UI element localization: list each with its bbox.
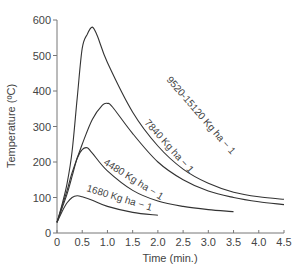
- x-tick-label: 1.5: [125, 236, 140, 248]
- y-axis-label: Temperature (ºC): [5, 84, 17, 168]
- temperature-time-chart: 0100200300400500600 00.51.01.52.02.53.03…: [0, 0, 303, 274]
- y-tick-label: 300: [33, 121, 51, 133]
- x-tick-label: 1.0: [100, 236, 115, 248]
- x-tick-label: 2.0: [150, 236, 165, 248]
- axes: 0100200300400500600 00.51.01.52.02.53.03…: [5, 14, 292, 264]
- x-tick-label: 4.0: [251, 236, 266, 248]
- x-tick-label: 3.5: [226, 236, 241, 248]
- curve-label-7840: 7840 Kg ha − 1: [143, 117, 197, 175]
- y-ticks: 0100200300400500600: [33, 14, 57, 239]
- y-tick-label: 500: [33, 50, 51, 62]
- y-tick-label: 100: [33, 192, 51, 204]
- x-tick-label: 4.5: [276, 236, 291, 248]
- x-axis-label: Time (min.): [142, 252, 197, 264]
- y-tick-label: 400: [33, 85, 51, 97]
- curve-labels: 9520-15120 Kg ha − 1 7840 Kg ha − 1 4480…: [85, 74, 238, 213]
- y-tick-label: 0: [45, 227, 51, 239]
- x-tick-label: 0.5: [75, 236, 90, 248]
- x-tick-label: 0: [54, 236, 60, 248]
- y-tick-label: 600: [33, 14, 51, 26]
- x-tick-label: 3.0: [201, 236, 216, 248]
- x-tick-label: 2.5: [175, 236, 190, 248]
- y-tick-label: 200: [33, 156, 51, 168]
